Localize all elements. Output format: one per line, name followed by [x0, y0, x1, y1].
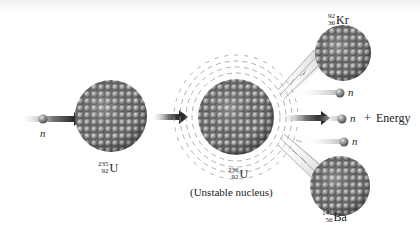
element-symbol: U — [240, 167, 249, 181]
krypton-label: 9236 Kr — [328, 13, 349, 27]
right-arrow-icon — [280, 115, 322, 121]
element-symbol: U — [110, 161, 119, 175]
product-neutron-label-3: n — [352, 135, 358, 147]
incoming-neutron — [18, 112, 82, 126]
element-symbol: Ba — [334, 210, 347, 224]
u236-nucleus — [198, 79, 274, 155]
energy-label: Energy — [376, 111, 410, 126]
barium-label: 14156 Ba — [322, 210, 347, 224]
incoming-neutron-label: n — [40, 127, 46, 139]
u235-nucleus — [75, 80, 147, 152]
plus-sign: + — [364, 111, 371, 126]
diagram-graphics — [0, 0, 420, 244]
neutron-sphere-icon — [340, 138, 349, 147]
atomic-number: 92 — [232, 174, 239, 181]
neutron-sphere-icon — [39, 115, 48, 124]
product-neutron-label-2: n — [350, 112, 356, 124]
atomic-number: 56 — [326, 217, 333, 224]
unstable-nucleus-caption: (Unstable nucleus) — [190, 186, 273, 198]
fission-diagram: n 23592 U 23692 U (Unstable nucleus) 923… — [0, 0, 420, 244]
krypton-fragment — [276, 25, 371, 100]
product-neutron-label-1: n — [348, 86, 354, 98]
atomic-number: 92 — [102, 168, 109, 175]
element-symbol: Kr — [336, 13, 349, 27]
right-arrow-icon — [150, 114, 180, 120]
arrow-absorption — [150, 110, 188, 124]
u235-label: 23592 U — [98, 161, 118, 175]
neutron-sphere-icon — [336, 89, 345, 98]
u236-label: 23692 U — [228, 167, 248, 181]
atomic-number: 36 — [328, 20, 335, 27]
neutron-sphere-icon — [338, 115, 347, 124]
